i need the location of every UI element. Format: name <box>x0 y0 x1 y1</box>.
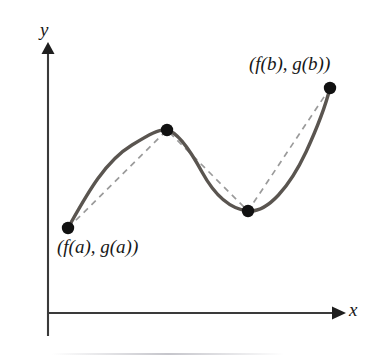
parametric-curve-path <box>68 88 330 228</box>
chord-polyline-group <box>68 88 330 228</box>
scan-artifact-line <box>52 353 284 355</box>
point-end <box>324 82 336 94</box>
y-axis-label: y <box>40 20 48 39</box>
x-axis-label: x <box>349 300 357 319</box>
x-axis-arrowhead <box>332 307 346 320</box>
curve-points-group <box>62 82 336 234</box>
end-point-label: (f(b), g(b)) <box>249 54 330 73</box>
axes-group <box>42 42 347 336</box>
point-peak <box>161 124 173 136</box>
point-valley <box>242 205 254 217</box>
parametric-curve-group <box>68 88 330 228</box>
parametric-curve-figure: y x (f(b), g(b)) (f(a), g(a)) <box>0 0 372 360</box>
y-axis-arrowhead <box>42 42 55 54</box>
chord-polyline <box>68 88 330 228</box>
point-start <box>62 222 74 234</box>
start-point-label: (f(a), g(a)) <box>57 237 138 256</box>
